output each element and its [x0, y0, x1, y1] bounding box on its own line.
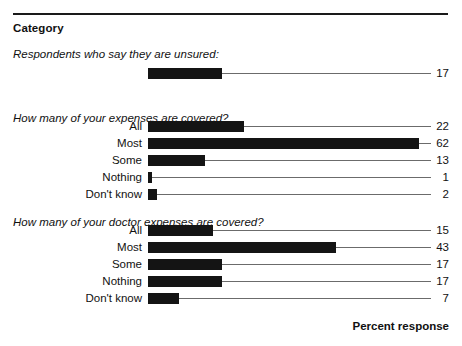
bar-row: Some17 — [0, 257, 462, 274]
bar-row-label: Nothing — [0, 171, 142, 183]
bar-row-label: Some — [0, 154, 142, 166]
bar-row-label: Most — [0, 137, 142, 149]
bar-leader-line — [148, 298, 431, 299]
bar — [148, 189, 157, 200]
bar — [148, 155, 205, 166]
bar-row: Most43 — [0, 240, 462, 257]
bar-value-label: 17 — [419, 275, 449, 287]
bar-value-label: 7 — [419, 292, 449, 304]
bar-row: Some13 — [0, 153, 462, 170]
bar-value-label: 62 — [419, 137, 449, 149]
bar-value-label: 15 — [419, 224, 449, 236]
bar-row: Nothing1 — [0, 170, 462, 187]
bar-value-label: 22 — [419, 120, 449, 132]
bar — [148, 293, 179, 304]
bar — [148, 276, 222, 287]
bar — [148, 121, 244, 132]
bar — [148, 225, 213, 236]
bar-value-label: 17 — [419, 67, 449, 79]
bar-row: Don't know7 — [0, 291, 462, 308]
bar-row-label: Most — [0, 241, 142, 253]
page-title: Category — [13, 22, 64, 34]
bar-value-label: 13 — [419, 154, 449, 166]
bar-row: All22 — [0, 119, 462, 136]
bar — [148, 172, 152, 183]
chart-root: Category Respondents who say they are un… — [0, 0, 462, 346]
bar-row-label: All — [0, 120, 142, 132]
bar-row: Don't know2 — [0, 187, 462, 204]
bar-value-label: 1 — [419, 171, 449, 183]
bar — [148, 259, 222, 270]
bar-row-label: Don't know — [0, 292, 142, 304]
bar-leader-line — [148, 194, 431, 195]
axis-title: Percent response — [249, 320, 449, 332]
bar — [148, 242, 336, 253]
bar-leader-line — [148, 177, 431, 178]
bar-row-label: Some — [0, 258, 142, 270]
bar-row: 17 — [0, 66, 462, 83]
bar-value-label: 43 — [419, 241, 449, 253]
bar-row: Most62 — [0, 136, 462, 153]
bar-row-label: Nothing — [0, 275, 142, 287]
bar — [148, 138, 419, 149]
bar-value-label: 17 — [419, 258, 449, 270]
bar-value-label: 2 — [419, 188, 449, 200]
bar-row-label: All — [0, 224, 142, 236]
section-heading: Respondents who say they are unsured: — [13, 48, 219, 60]
bar-row-label: Don't know — [0, 188, 142, 200]
bar-row: Nothing17 — [0, 274, 462, 291]
bar — [148, 68, 222, 79]
header-rule — [13, 13, 448, 15]
bar-row: All15 — [0, 223, 462, 240]
